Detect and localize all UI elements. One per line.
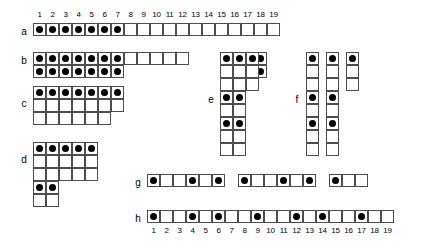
grid-cell (111, 65, 124, 78)
ruler-tick: 17 (355, 226, 368, 236)
grid-cell (33, 142, 46, 155)
grid-cell (233, 117, 246, 130)
grid-cell (381, 210, 394, 223)
grid-cell (225, 210, 238, 223)
grid-cell (303, 174, 316, 187)
grid-cell (326, 130, 339, 143)
column-numbers-bottom: 1 2 3 4 5 6 7 8 9 10 11 12 13 14 15 16 1… (147, 226, 394, 236)
grid-h (147, 210, 394, 223)
grid-cell (220, 65, 233, 78)
grid-cell (277, 210, 290, 223)
grid-cell (199, 210, 212, 223)
grid-e (220, 52, 259, 156)
grid-gap (267, 65, 280, 78)
grid-gap (85, 194, 98, 207)
figure-canvas: 1 2 3 4 5 6 7 8 9 10 11 12 13 14 15 16 1… (0, 0, 424, 251)
grid-cell (85, 99, 98, 112)
ruler-tick: 3 (59, 10, 72, 20)
grid-cell (290, 210, 303, 223)
grid-cell (59, 86, 72, 99)
ruler-tick: 12 (176, 10, 189, 20)
grid-cell (189, 23, 202, 36)
grid-cell (368, 210, 381, 223)
grid-cell (160, 174, 173, 187)
ruler-tick: 10 (264, 226, 277, 236)
grid-cell (137, 52, 150, 65)
grid-cell (85, 168, 98, 181)
grid-cell (355, 210, 368, 223)
grid-cell (85, 112, 98, 125)
grid-cell (98, 99, 111, 112)
grid-cell (98, 23, 111, 36)
grid-cell (72, 168, 85, 181)
ruler-tick: 9 (137, 10, 150, 20)
grid-gap (202, 52, 215, 65)
ruler-tick: 5 (199, 226, 212, 236)
grid-cell (264, 174, 277, 187)
ruler-tick: 6 (212, 226, 225, 236)
grid-cell (72, 142, 85, 155)
grid-cell (326, 91, 339, 104)
ruler-tick: 14 (316, 226, 329, 236)
grid-cell (150, 23, 163, 36)
grid-cell (212, 210, 225, 223)
grid-cell (46, 155, 59, 168)
grid-cell (212, 174, 225, 187)
ruler-tick: 14 (202, 10, 215, 20)
grid-cell (46, 65, 59, 78)
grid-cell (160, 210, 173, 223)
ruler-tick: 8 (238, 226, 251, 236)
grid-cell (72, 112, 85, 125)
grid-cell (72, 65, 85, 78)
grid-cell (238, 174, 251, 187)
grid-cell (72, 155, 85, 168)
ruler-tick: 2 (46, 10, 59, 20)
grid-cell (316, 210, 329, 223)
grid-gap (316, 174, 329, 187)
grid-gap (85, 181, 98, 194)
grid-cell (342, 210, 355, 223)
grid-cell (220, 52, 233, 65)
grid-cell (59, 112, 72, 125)
grid-gap (163, 65, 176, 78)
grid-cell (173, 210, 186, 223)
grid-gap (124, 65, 137, 78)
grid-cell (326, 65, 339, 78)
ruler-tick: 15 (215, 10, 228, 20)
grid-d (33, 142, 98, 207)
ruler-tick: 4 (186, 226, 199, 236)
grid-cell (85, 23, 98, 36)
row-label-b: b (19, 56, 29, 66)
grid-cell (59, 52, 72, 65)
grid-cell (246, 78, 259, 91)
grid-gap (72, 194, 85, 207)
grid-cell (228, 23, 241, 36)
grid-cell (150, 52, 163, 65)
ruler-tick: 13 (189, 10, 202, 20)
grid-cell (306, 143, 319, 156)
grid-a (33, 23, 280, 36)
grid-gap (346, 91, 359, 104)
grid-cell (46, 52, 59, 65)
grid-cell (111, 99, 124, 112)
grid-cell (264, 210, 277, 223)
grid-gap (346, 104, 359, 117)
grid-cell (98, 86, 111, 99)
grid-cell (220, 104, 233, 117)
row-label-f: f (292, 95, 302, 105)
grid-cell (46, 142, 59, 155)
grid-cell (241, 23, 254, 36)
ruler-tick: 1 (33, 10, 46, 20)
grid-cell (124, 23, 137, 36)
grid-cell (267, 23, 280, 36)
grid-cell (220, 117, 233, 130)
grid-cell (59, 155, 72, 168)
ruler-tick: 18 (254, 10, 267, 20)
grid-cell (59, 99, 72, 112)
row-label-h: h (133, 214, 143, 224)
grid-cell (111, 52, 124, 65)
grid-cell (176, 23, 189, 36)
grid-cell (329, 210, 342, 223)
grid-cell (33, 181, 46, 194)
grid-cell (98, 52, 111, 65)
